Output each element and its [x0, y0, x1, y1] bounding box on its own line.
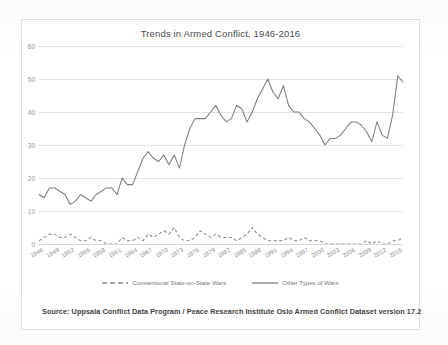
x-tick-label-1988: 1988: [248, 247, 263, 259]
legend-swatch-dashed: [102, 280, 128, 286]
x-tick-label-1946: 1946: [29, 247, 44, 259]
x-tick-label-1967: 1967: [139, 247, 154, 259]
x-tick-label-1952: 1952: [61, 247, 76, 259]
x-tick-label-1982: 1982: [217, 247, 232, 259]
series-lines-svg: [39, 46, 403, 244]
x-tick-label-1991: 1991: [263, 247, 278, 259]
x-tick-label-2003: 2003: [326, 247, 341, 259]
x-axis-line: [39, 244, 403, 245]
x-tick-label-1976: 1976: [185, 247, 200, 259]
x-tick-label-2015: 2015: [388, 247, 403, 259]
source-note: Source: Uppsala Conflict Data Program / …: [42, 307, 421, 316]
x-tick-label-2012: 2012: [373, 247, 388, 259]
chart-legend: Conventional State-on-State Wars Other T…: [22, 279, 419, 286]
x-tick-label-1970: 1970: [154, 247, 169, 259]
x-tick-label-1985: 1985: [232, 247, 247, 259]
legend-label-other: Other Types of Wars: [282, 279, 338, 286]
y-tick-label-60: 60: [28, 43, 35, 50]
legend-item-conventional: Conventional State-on-State Wars: [102, 279, 226, 286]
legend-swatch-solid: [252, 280, 278, 286]
x-tick-label-1955: 1955: [76, 247, 91, 259]
x-tick-label-2009: 2009: [357, 247, 372, 259]
y-tick-label-20: 20: [28, 175, 35, 182]
screenshot-page: Trends in Armed Conflict, 1946-2016 0102…: [0, 0, 448, 345]
y-tick-label-10: 10: [28, 208, 35, 215]
chart-frame: Trends in Armed Conflict, 1946-2016 0102…: [21, 19, 420, 330]
y-tick-label-30: 30: [28, 142, 35, 149]
series-line-other-types-of-wars: [39, 76, 403, 205]
x-tick-label-1973: 1973: [170, 247, 185, 259]
plot-area: 0102030405060: [39, 46, 403, 244]
y-tick-label-50: 50: [28, 76, 35, 83]
x-tick-label-1958: 1958: [92, 247, 107, 259]
x-tick-label-1994: 1994: [279, 247, 294, 259]
legend-item-other: Other Types of Wars: [252, 279, 338, 286]
x-axis-tick-labels: 1946194919521955195819611964196719701973…: [39, 246, 403, 272]
x-tick-label-2000: 2000: [310, 247, 325, 259]
chart-title: Trends in Armed Conflict, 1946-2016: [22, 28, 419, 39]
y-tick-label-0: 0: [31, 241, 35, 248]
series-line-conventional-state-on-state-wars: [39, 228, 403, 245]
x-tick-label-1979: 1979: [201, 247, 216, 259]
y-tick-label-40: 40: [28, 109, 35, 116]
x-tick-label-1961: 1961: [107, 247, 122, 259]
x-tick-label-1949: 1949: [45, 247, 60, 259]
x-tick-label-2006: 2006: [341, 247, 356, 259]
x-tick-label-1997: 1997: [295, 247, 310, 259]
legend-label-conventional: Conventional State-on-State Wars: [132, 279, 226, 286]
x-tick-label-1964: 1964: [123, 247, 138, 259]
